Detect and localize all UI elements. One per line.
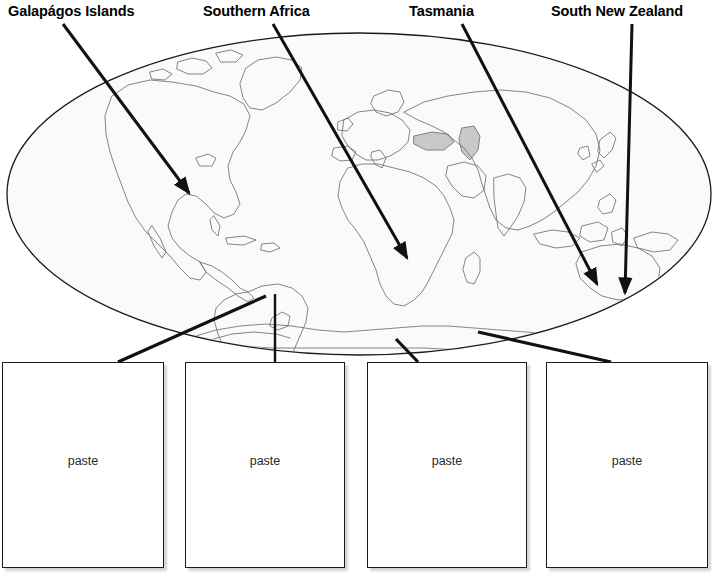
callout-label-galapagos: Galapágos Islands bbox=[8, 2, 134, 20]
globe-outline-ellipse bbox=[7, 33, 711, 355]
paste-box-1[interactable]: paste bbox=[2, 362, 164, 568]
callout-label-southern-africa: Southern Africa bbox=[203, 2, 310, 20]
world-map-svg bbox=[0, 0, 716, 376]
new-zealand-north-outline bbox=[680, 276, 696, 292]
worksheet-page: Galapágos Islands Southern Africa Tasman… bbox=[0, 0, 716, 576]
paste-box-2[interactable]: paste bbox=[185, 362, 345, 568]
paste-box-4[interactable]: paste bbox=[546, 362, 708, 568]
world-map-globe bbox=[0, 0, 716, 376]
paste-box-3-label: paste bbox=[432, 454, 463, 468]
new-zealand-south-outline bbox=[692, 292, 708, 310]
paste-box-2-label: paste bbox=[250, 454, 281, 468]
paste-box-3[interactable]: paste bbox=[367, 362, 527, 568]
paste-box-4-label: paste bbox=[612, 454, 643, 468]
tasmania-outline bbox=[622, 304, 636, 316]
callout-label-south-new-zealand: South New Zealand bbox=[551, 2, 683, 20]
callout-label-tasmania: Tasmania bbox=[409, 2, 474, 20]
paste-box-1-label: paste bbox=[68, 454, 99, 468]
